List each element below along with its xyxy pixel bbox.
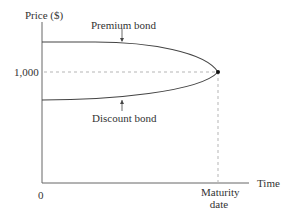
premium-arrowhead-icon [120, 38, 124, 42]
discount-bond-curve [42, 72, 218, 100]
maturity-point [216, 70, 220, 74]
discount-arrowhead-icon [120, 100, 124, 104]
maturity-tick-line1: Maturity [201, 186, 237, 198]
y-axis-label: Price ($) [25, 9, 63, 21]
x-axis-label: Time [257, 177, 280, 189]
maturity-tick-line2: date [201, 198, 237, 210]
discount-bond-label: Discount bond [92, 112, 156, 124]
premium-bond-label: Premium bond [91, 19, 156, 31]
bond-price-chart [0, 0, 292, 213]
par-value-tick-label: 1,000 [14, 66, 39, 78]
premium-bond-curve [42, 42, 218, 72]
maturity-tick-label: Maturity date [201, 186, 237, 210]
origin-tick-label: 0 [38, 189, 44, 201]
